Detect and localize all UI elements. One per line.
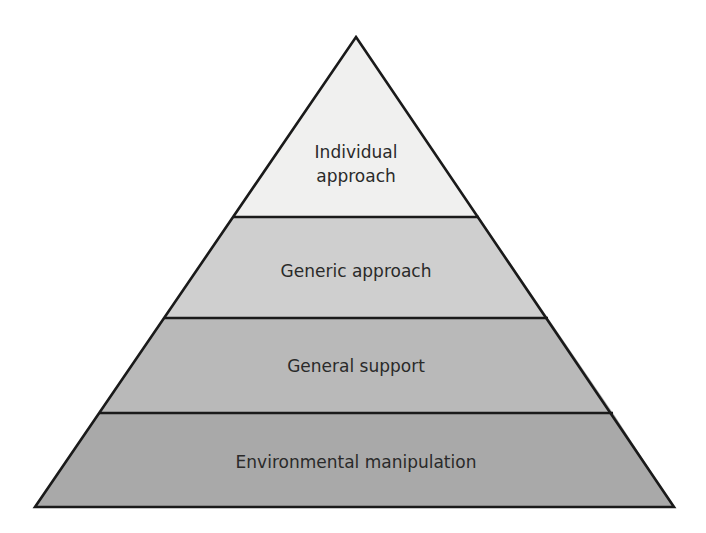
pyramid-diagram: Individual approach Generic approach Gen…	[0, 0, 706, 533]
tier-label-generic: Generic approach	[281, 261, 432, 281]
tier-individual-approach	[233, 37, 479, 217]
tier-label-general: General support	[287, 356, 425, 376]
tier-label-individual-line2: approach	[316, 166, 396, 186]
tier-label-environmental: Environmental manipulation	[236, 452, 477, 472]
tier-label-individual-line1: Individual	[315, 142, 398, 162]
